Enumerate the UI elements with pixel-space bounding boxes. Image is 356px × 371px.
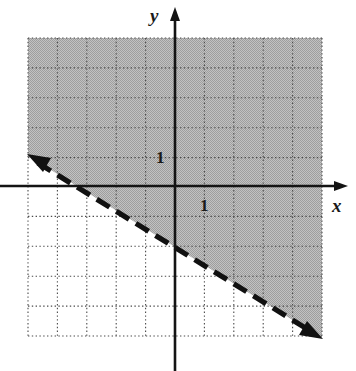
y-unit-tick-label: 1 [156, 148, 165, 167]
x-unit-tick-label: 1 [200, 196, 209, 215]
x-axis-label: x [331, 195, 342, 216]
graph-canvas: y x 1 1 [0, 0, 356, 371]
y-axis-label: y [148, 5, 159, 26]
inequality-graph: y x 1 1 [0, 0, 356, 371]
